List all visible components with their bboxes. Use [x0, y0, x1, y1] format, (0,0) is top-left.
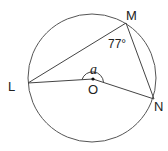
chord-mn — [126, 23, 154, 99]
label-n: N — [154, 99, 163, 114]
label-l: L — [8, 79, 15, 94]
label-m: M — [126, 8, 137, 23]
radius-on — [93, 79, 154, 99]
angle-label-77: 77° — [108, 37, 126, 51]
radius-lo — [28, 79, 93, 83]
angle-label-a: a — [90, 62, 97, 77]
chord-lm — [28, 23, 126, 83]
center-dot — [91, 77, 94, 80]
label-o: O — [88, 82, 98, 97]
circle-diagram: L M N O 77° a — [0, 0, 168, 151]
